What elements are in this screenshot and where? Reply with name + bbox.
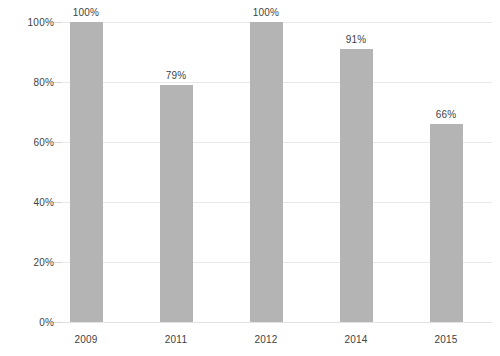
bar-2009[interactable]	[70, 22, 103, 322]
bar-value-2014: 91%	[326, 35, 386, 45]
axis-baseline	[62, 322, 492, 323]
y-tick-stub-20	[53, 262, 62, 263]
y-tick-stub-100	[53, 22, 62, 23]
y-tick-stub-60	[53, 142, 62, 143]
bar-value-2009: 100%	[56, 8, 116, 18]
x-axis-label-2015: 2015	[411, 335, 481, 345]
y-tick-stub-0	[53, 322, 62, 323]
bar-2011[interactable]	[160, 85, 193, 322]
x-axis-label-2012: 2012	[231, 335, 301, 345]
x-axis-label-2011: 2011	[141, 335, 211, 345]
bar-value-2015: 66%	[416, 110, 476, 120]
y-axis-label-20: 20%	[33, 258, 54, 268]
x-axis-label-2009: 2009	[51, 335, 121, 345]
y-tick-stub-80	[53, 82, 62, 83]
y-axis-label-0: 0%	[39, 318, 54, 328]
y-axis-label-60: 60%	[33, 138, 54, 148]
y-tick-stub-40	[53, 202, 62, 203]
bar-2015[interactable]	[430, 124, 463, 322]
bar-value-2012: 100%	[236, 8, 296, 18]
bar-value-2011: 79%	[146, 71, 206, 81]
y-axis-label-100: 100%	[28, 18, 54, 28]
bar-2012[interactable]	[250, 22, 283, 322]
y-axis-label-40: 40%	[33, 198, 54, 208]
y-axis-label-80: 80%	[33, 78, 54, 88]
bar-chart: 100% 80% 60% 40% 20% 0% 100% 79% 100% 91…	[0, 0, 500, 356]
bar-2014[interactable]	[340, 49, 373, 322]
x-axis-label-2014: 2014	[321, 335, 391, 345]
